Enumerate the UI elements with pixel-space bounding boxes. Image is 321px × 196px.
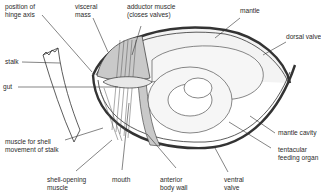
- label-gut: gut: [3, 83, 12, 91]
- lophophore: [148, 46, 263, 133]
- label-hinge-axis: position of hinge axis: [5, 3, 35, 18]
- visceral-mass: [97, 36, 150, 81]
- label-stalk: stalk: [5, 58, 19, 66]
- stalk: [43, 48, 80, 142]
- label-ventral-valve: ventral valve: [224, 176, 244, 191]
- brachiopod-diagram: [0, 0, 321, 196]
- label-muscle-stalk: muscle for shell movement of stalk: [5, 138, 59, 153]
- label-mouth: mouth: [112, 176, 130, 184]
- label-adductor-muscle: adductor muscle (closes valves): [127, 3, 175, 18]
- label-anterior-body-wall: anterior body wall: [160, 176, 188, 191]
- label-shell-opening-muscle: shell-opening muscle: [47, 176, 86, 191]
- label-tentacular-feeding-organ: tentacular feeding organ: [278, 146, 318, 161]
- gut: [103, 77, 152, 88]
- label-visceral-mass: visceral mass: [75, 3, 97, 18]
- label-mantle-cavity: mantle cavity: [278, 129, 316, 137]
- label-dorsal-valve: dorsal valve: [286, 33, 321, 41]
- label-mantle: mantle: [240, 7, 260, 15]
